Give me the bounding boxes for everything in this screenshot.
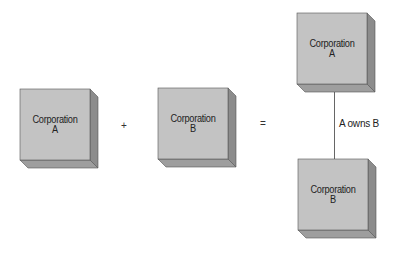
plus-sign: +	[121, 120, 127, 131]
result-corporation-a-box: Corporation A	[297, 13, 367, 84]
corporation-b-box: Corporation B	[158, 88, 228, 159]
box-label: Corporation A	[23, 89, 87, 160]
box-label: Corporation A	[300, 13, 364, 84]
relationship-label: A owns B	[339, 118, 379, 129]
equals-sign: =	[260, 118, 266, 129]
corporation-a-box: Corporation A	[20, 89, 90, 160]
box-label: Corporation B	[161, 88, 225, 159]
box-label: Corporation B	[301, 159, 365, 230]
ownership-connector-line	[334, 91, 335, 159]
result-corporation-b-box: Corporation B	[298, 159, 368, 230]
